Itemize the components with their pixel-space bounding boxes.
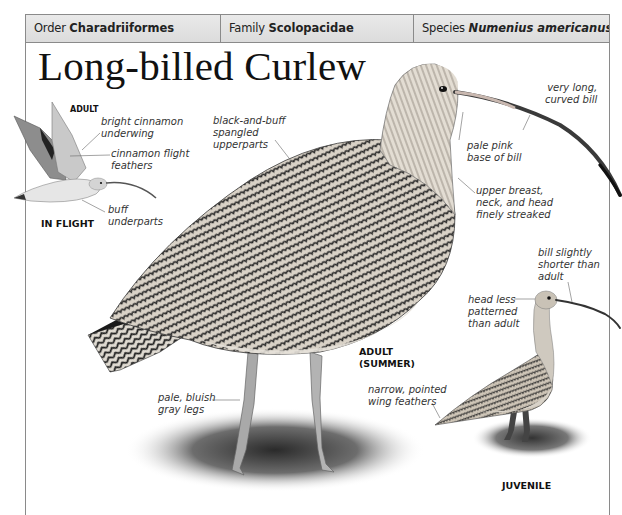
flight-caption-in-flight: IN FLIGHT xyxy=(41,218,94,230)
adult-summer-caption: ADULT (SUMMER) xyxy=(359,346,415,370)
label-buff-underparts: buff underparts xyxy=(108,204,163,228)
juvenile-curlew-icon xyxy=(435,291,620,442)
juvenile-caption: JUVENILE xyxy=(502,480,551,492)
label-pale-pink-base-of-bill: pale pink base of bill xyxy=(467,140,522,164)
label-narrow-pointed-wing-feathers: narrow, pointed wing feathers xyxy=(368,384,447,408)
label-very-long-curved-bill: very long, curved bill xyxy=(545,82,597,106)
adult-ground-shadow xyxy=(125,408,425,492)
label-black-and-buff-upperparts: black-and-buff spangled upperparts xyxy=(213,115,285,151)
label-cinnamon-flight-feathers: cinnamon flight feathers xyxy=(111,148,189,172)
label-head-less-patterned: head less patterned than adult xyxy=(468,294,519,330)
label-pale-bluish-gray-legs: pale, bluish gray legs xyxy=(158,392,216,416)
flight-caption-adult: ADULT xyxy=(70,104,99,116)
label-upper-breast-streaked: upper breast, neck, and head finely stre… xyxy=(476,185,553,221)
label-bright-cinnamon-underwing: bright cinnamon underwing xyxy=(101,116,183,140)
juvenile-ground-shadow xyxy=(472,418,592,458)
label-bill-slightly-shorter: bill slightly shorter than adult xyxy=(538,247,600,283)
